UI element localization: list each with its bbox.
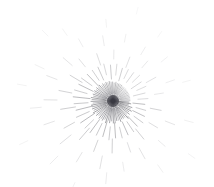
convergence-hub bbox=[111, 99, 115, 103]
burst-figure bbox=[0, 0, 214, 187]
burst-canvas bbox=[0, 0, 214, 187]
figure-background bbox=[0, 0, 214, 187]
